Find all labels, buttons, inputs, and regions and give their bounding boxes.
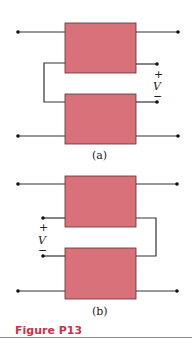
two-port-box-bottom: [65, 248, 136, 299]
terminal-dot: [155, 62, 159, 66]
terminal-dot: [176, 134, 180, 138]
terminal-dot: [176, 30, 180, 34]
terminal-dot: [16, 289, 20, 293]
subfigure-a: + V − (a): [16, 23, 180, 162]
polarity-minus: −: [153, 90, 162, 103]
two-port-box-top: [65, 23, 136, 73]
terminal-dot: [175, 182, 179, 186]
two-port-box-bottom: [65, 94, 136, 144]
terminal-dot: [16, 182, 20, 186]
figure-diagram: + V − (a) + V − (b): [0, 0, 192, 346]
terminal-dot: [16, 30, 20, 34]
polarity-minus: −: [38, 244, 47, 257]
two-port-box-top: [65, 176, 136, 227]
polarity-plus: +: [39, 221, 48, 234]
subfigure-label: (a): [92, 149, 107, 162]
subfigure-b: + V − (b): [16, 176, 179, 318]
divider: [0, 337, 192, 338]
terminal-dot: [41, 216, 45, 220]
subfigure-label: (b): [92, 305, 108, 318]
connector-wire: [136, 218, 156, 256]
figure-caption: Figure P13: [15, 324, 82, 337]
terminal-dot: [175, 289, 179, 293]
connector-wire: [44, 63, 65, 102]
terminal-dot: [16, 134, 20, 138]
